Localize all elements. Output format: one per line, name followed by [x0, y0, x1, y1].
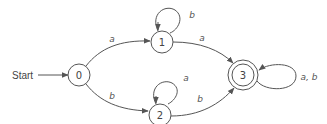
edge-2-loop: [154, 82, 178, 104]
edge-label-2-3: b: [197, 94, 203, 104]
state-2-label: 2: [157, 110, 163, 121]
edge-1-loop: [156, 8, 180, 33]
state-3-label: 3: [240, 70, 246, 81]
edge-1-to-3: [173, 42, 233, 63]
state-2: 2: [149, 104, 171, 124]
edge-label-1-3: a: [199, 33, 205, 43]
edge-0-to-1: [86, 41, 150, 66]
edge-label-2-2: a: [183, 73, 189, 83]
edge-label-1-1: b: [189, 10, 195, 20]
edge-label-0-2: b: [109, 91, 115, 101]
state-0: 0: [68, 64, 90, 86]
edge-label-0-1: a: [109, 34, 115, 44]
edge-3-loop: [257, 65, 296, 89]
state-1: 1: [151, 31, 173, 53]
edge-label-3-3: a, b: [301, 72, 318, 82]
state-0-label: 0: [76, 70, 82, 81]
edge-0-to-2: [86, 84, 148, 111]
start-label: Start: [12, 70, 33, 81]
state-3-accepting: 3: [228, 60, 258, 90]
dfa-diagram: Start a b b a a b a, b 0 1 2 3: [0, 0, 327, 124]
state-1-label: 1: [159, 37, 165, 48]
